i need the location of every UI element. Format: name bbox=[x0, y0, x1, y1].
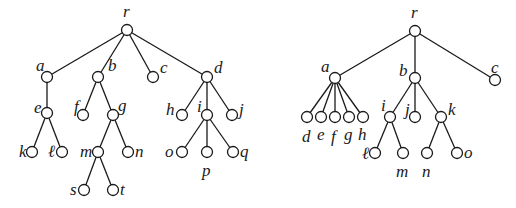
left-tree-node-k bbox=[27, 147, 38, 158]
right-tree-label-g: g bbox=[344, 126, 353, 143]
left-tree-node-g bbox=[108, 110, 119, 121]
right-tree-node-r bbox=[410, 26, 421, 37]
right-tree-node-a bbox=[330, 73, 341, 84]
left-tree-node-h bbox=[177, 110, 188, 121]
right-tree-node-b bbox=[410, 73, 421, 84]
left-tree-label-t: t bbox=[120, 181, 125, 198]
right-tree-edge-b-k bbox=[415, 78, 441, 117]
right-tree-node-k bbox=[436, 112, 447, 123]
left-tree-label-e: e bbox=[34, 99, 42, 116]
right-tree-node-e bbox=[316, 112, 327, 123]
right-tree-label-k: k bbox=[448, 101, 456, 118]
right-tree-label-l: ℓ bbox=[362, 145, 369, 162]
right-tree-node-d bbox=[302, 112, 313, 123]
left-tree-node-q bbox=[228, 147, 239, 158]
right-tree-label-a: a bbox=[321, 58, 330, 75]
right-tree-label-n: n bbox=[422, 163, 431, 180]
right-tree-node-h bbox=[358, 112, 369, 123]
right-tree-node-o bbox=[452, 148, 463, 159]
left-tree-node-e bbox=[42, 108, 53, 119]
left-tree-label-d: d bbox=[214, 59, 223, 76]
left-tree-edge-e-k bbox=[32, 113, 47, 152]
right-tree-node-f bbox=[330, 112, 341, 123]
right-tree-node-l bbox=[370, 148, 381, 159]
left-tree-node-f bbox=[78, 110, 89, 121]
right-tree-node-i bbox=[385, 112, 396, 123]
right-tree-edge-a-g bbox=[335, 78, 349, 117]
left-tree-node-t bbox=[108, 185, 119, 196]
right-tree-label-b: b bbox=[399, 62, 408, 79]
left-tree-node-m bbox=[93, 147, 104, 158]
left-tree-label-j: j bbox=[239, 101, 244, 118]
left-tree-edge-i-q bbox=[207, 115, 233, 152]
left-tree-label-g: g bbox=[118, 97, 127, 114]
right-tree-node-m bbox=[398, 148, 409, 159]
right-tree-label-r: r bbox=[411, 4, 418, 21]
left-tree-label-k: k bbox=[19, 143, 27, 160]
left-tree-node-c bbox=[148, 72, 159, 83]
left-tree-node-n bbox=[123, 147, 134, 158]
right-tree-edge-b-i bbox=[390, 78, 415, 117]
left-tree-label-a: a bbox=[36, 57, 45, 74]
right-tree-edge-r-c bbox=[415, 31, 495, 80]
right-tree-node-j bbox=[410, 112, 421, 123]
left-tree-node-l bbox=[57, 147, 68, 158]
right-tree-edge-a-e bbox=[321, 78, 335, 117]
left-tree-label-q: q bbox=[240, 143, 249, 160]
left-tree-label-m: m bbox=[80, 143, 92, 160]
left-tree-edge-d-h bbox=[182, 77, 207, 115]
right-tree-label-f: f bbox=[331, 128, 336, 145]
right-tree-label-o: o bbox=[464, 144, 473, 161]
right-tree-label-m: m bbox=[396, 163, 408, 180]
left-tree-label-b: b bbox=[108, 57, 117, 74]
tree-diagram-canvas: rabcdefghijkℓmnopqstrabcdefghijkℓmno bbox=[0, 0, 516, 208]
left-tree-node-d bbox=[202, 72, 213, 83]
right-tree-node-n bbox=[422, 148, 433, 159]
right-tree-node-g bbox=[344, 112, 355, 123]
left-tree-label-n: n bbox=[135, 143, 144, 160]
left-tree-label-f: f bbox=[74, 98, 79, 115]
right-tree-label-i: i bbox=[381, 97, 386, 114]
left-tree-label-p: p bbox=[202, 162, 211, 179]
left-tree-label-l: ℓ bbox=[48, 143, 55, 160]
right-tree-label-e: e bbox=[317, 126, 325, 143]
left-tree-label-s: s bbox=[70, 181, 77, 198]
left-tree-edge-d-j bbox=[207, 77, 232, 115]
left-tree-label-o: o bbox=[165, 143, 174, 160]
left-tree-edge-i-o bbox=[182, 115, 207, 152]
right-tree-label-d: d bbox=[302, 128, 311, 145]
right-tree-label-j: j bbox=[405, 101, 410, 118]
left-tree-node-i bbox=[202, 110, 213, 121]
left-tree-label-c: c bbox=[160, 59, 168, 76]
left-tree-node-r bbox=[122, 25, 133, 36]
left-tree-label-r: r bbox=[123, 3, 130, 20]
left-tree-node-s bbox=[79, 185, 90, 196]
left-tree-label-h: h bbox=[166, 101, 175, 118]
left-tree-label-i: i bbox=[197, 98, 202, 115]
left-tree-node-o bbox=[177, 147, 188, 158]
left-tree-node-j bbox=[227, 110, 238, 121]
left-tree-node-p bbox=[202, 147, 213, 158]
left-tree-node-b bbox=[93, 72, 104, 83]
right-tree-label-c: c bbox=[491, 59, 499, 76]
right-tree-label-h: h bbox=[358, 126, 367, 143]
